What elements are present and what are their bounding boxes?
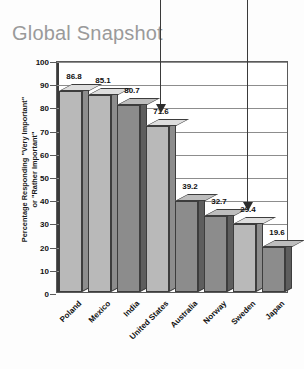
bar-value-label: 32.7 [211,197,227,206]
bar[interactable] [88,95,111,292]
page-title: Global Snapshot [12,22,163,45]
bar-value-label: 86.8 [66,72,82,81]
bar-front-face [262,247,285,292]
y-tick-mark [50,271,56,272]
x-tick-label: Poland [58,299,83,324]
y-tick-mark [50,178,56,179]
x-tick-label: Australia [169,299,200,330]
bar-front-face [88,95,111,292]
y-tick-label: 100 [36,58,49,67]
x-tick-label: India [122,299,142,319]
chart-canvas: Global Snapshot Percentage Responding "V… [0,0,304,369]
bar[interactable] [204,216,227,292]
bar-top-face [146,119,189,126]
y-tick-label: 10 [40,266,49,275]
y-tick-mark [50,132,56,133]
y-tick-label: 30 [40,220,49,229]
arrow-united-states-line [160,0,161,104]
y-axis-label: Percentage Responding "Very Important" o… [20,55,39,285]
bar[interactable] [117,105,140,292]
y-tick-mark [50,294,56,295]
x-tick-label: Japan [264,299,287,322]
bar-value-label: 19.6 [269,228,285,237]
y-tick-mark [50,155,56,156]
bar-top-face [262,240,304,247]
y-tick-label: 90 [40,81,49,90]
y-tick-mark [50,85,56,86]
y-tick-mark [50,201,56,202]
y-tick-label: 70 [40,127,49,136]
y-tick-label: 50 [40,174,49,183]
bar-front-face [175,201,198,292]
bar-front-face [233,224,256,292]
bar-top-face [117,98,160,105]
x-tick-label: Norway [202,299,229,326]
y-tick-label: 40 [40,197,49,206]
plot-area: 1009080706050403020100 86.885.180.771.63… [56,61,288,293]
bar-top-face [233,217,276,224]
bar-value-label: 39.2 [182,182,198,191]
arrow-united-states-head [156,104,166,113]
y-tick-mark [50,248,56,249]
arrow-sweden-head [243,202,253,211]
bar[interactable] [146,126,169,292]
bar-front-face [204,216,227,292]
bar-value-label: 80.7 [124,86,140,95]
y-tick-label: 20 [40,243,49,252]
y-tick-label: 0 [45,290,49,299]
bar[interactable] [233,224,256,292]
bar-front-face [146,126,169,292]
x-tick-label: Sweden [230,299,258,327]
x-tick-label: Mexico [87,299,113,325]
y-tick-mark [50,62,56,63]
bar-value-label: 85.1 [95,76,111,85]
y-tick-mark [50,108,56,109]
bar-front-face [59,91,82,292]
bar-series: 86.885.180.771.639.232.729.419.6 [57,62,287,292]
bar-side-face [285,243,292,292]
bar-front-face [117,105,140,292]
y-tick-mark [50,224,56,225]
arrow-sweden-line [247,0,248,202]
bar[interactable] [262,247,285,292]
bar[interactable] [59,91,82,292]
bar[interactable] [175,201,198,292]
y-tick-label: 60 [40,150,49,159]
y-tick-label: 80 [40,104,49,113]
